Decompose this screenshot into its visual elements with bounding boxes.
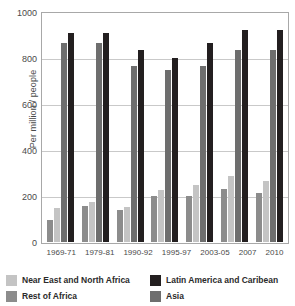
x-axis-tick-label: 1995-97 <box>162 248 191 257</box>
legend-swatch-icon <box>150 275 161 286</box>
legend-swatch-icon <box>6 275 17 286</box>
plot-area <box>41 12 289 244</box>
bar[interactable] <box>131 66 137 242</box>
legend-swatch-icon <box>6 291 17 302</box>
bar[interactable] <box>172 58 178 242</box>
legend-item[interactable]: Rest of Africa <box>6 291 150 302</box>
legend-label: Rest of Africa <box>22 291 77 301</box>
bar[interactable] <box>47 220 53 242</box>
x-axis-tick-label: 1979-81 <box>85 248 114 257</box>
bar[interactable] <box>151 196 157 242</box>
legend-label: Asia <box>166 291 184 301</box>
bar[interactable] <box>207 43 213 242</box>
bar[interactable] <box>270 50 276 242</box>
bar[interactable] <box>61 43 67 242</box>
bar[interactable] <box>228 176 234 242</box>
bar[interactable] <box>263 181 269 242</box>
bar-groups <box>43 14 287 242</box>
bar[interactable] <box>117 210 123 242</box>
y-axis-tick-labels: 02004006008001000 <box>0 12 37 244</box>
bar-chart: Per million / people 02004006008001000 1… <box>0 0 295 306</box>
bar-group <box>47 14 74 242</box>
bar[interactable] <box>68 33 74 242</box>
bar[interactable] <box>96 43 102 242</box>
bar-group <box>82 14 109 242</box>
x-axis-tick-label: 2003-05 <box>200 248 229 257</box>
bar-group <box>256 14 283 242</box>
bar[interactable] <box>235 50 241 242</box>
legend-item[interactable]: Latin America and Caribean <box>150 275 294 286</box>
y-axis-tick-label: 600 <box>0 100 37 110</box>
bar[interactable] <box>277 30 283 242</box>
bar[interactable] <box>193 185 199 243</box>
bar[interactable] <box>165 70 171 243</box>
bar-group <box>186 14 213 242</box>
legend-item[interactable]: Asia <box>150 291 294 302</box>
legend-label: Near East and North Africa <box>22 275 130 285</box>
bar[interactable] <box>89 202 95 242</box>
x-axis-tick-label: 2007 <box>239 248 257 257</box>
chart-legend: Near East and North AfricaLatin America … <box>6 272 289 304</box>
legend-label: Latin America and Caribean <box>166 275 278 285</box>
bar-group <box>151 14 178 242</box>
bar[interactable] <box>242 30 248 242</box>
x-axis-tick-label: 1990-92 <box>123 248 152 257</box>
bar[interactable] <box>103 33 109 242</box>
bar-group <box>117 14 144 242</box>
bar[interactable] <box>186 196 192 242</box>
y-axis-tick-label: 800 <box>0 54 37 64</box>
y-axis-tick-label: 400 <box>0 146 37 156</box>
y-axis-tick-label: 0 <box>0 238 37 248</box>
bar[interactable] <box>256 193 262 242</box>
bar-group <box>221 14 248 242</box>
bar[interactable] <box>124 207 130 242</box>
x-axis-tick-label: 2010 <box>266 248 284 257</box>
bar[interactable] <box>82 206 88 242</box>
bar[interactable] <box>158 190 164 242</box>
y-axis-tick-label: 200 <box>0 192 37 202</box>
x-axis-tick-label: 1969-71 <box>47 248 76 257</box>
bar[interactable] <box>138 50 144 242</box>
bar[interactable] <box>221 189 227 242</box>
bar[interactable] <box>54 208 60 243</box>
legend-swatch-icon <box>150 291 161 302</box>
x-axis-tick-labels: 1969-711979-811990-921995-972003-0520072… <box>42 248 288 257</box>
legend-item[interactable]: Near East and North Africa <box>6 275 150 286</box>
bar[interactable] <box>200 66 206 242</box>
y-axis-tick-label: 1000 <box>0 8 37 18</box>
